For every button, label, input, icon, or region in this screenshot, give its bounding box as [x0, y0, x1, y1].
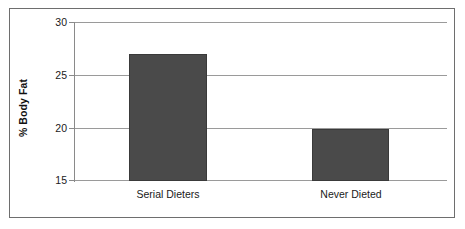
x-tick-label-never-dieted: Never Dieted: [291, 189, 411, 200]
bar-chart-figure: 30 25 20 15 % Body Fat Serial Dieters Ne…: [0, 0, 465, 229]
x-tick-label-serial-dieters: Serial Dieters: [108, 189, 228, 200]
x-tick-label-group: Serial Dieters Never Dieted: [0, 0, 465, 229]
